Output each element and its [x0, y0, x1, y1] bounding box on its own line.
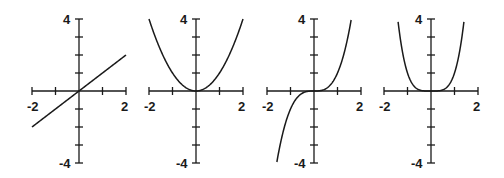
graph-cubic: 4 -4 -2 2 [262, 12, 363, 171]
x-max-label: 2 [473, 99, 480, 114]
y-min-label: -4 [176, 156, 188, 171]
x-min-label: -2 [262, 99, 274, 114]
graph-linear: 4 -4 -2 2 [27, 12, 128, 171]
graph-quartic: 4 -4 -2 2 [379, 12, 480, 171]
y-min-label: -4 [411, 156, 423, 171]
y-max-label: 4 [180, 12, 188, 27]
y-max-label: 4 [63, 12, 71, 27]
y-min-label: -4 [294, 156, 306, 171]
y-min-label: -4 [59, 156, 71, 171]
x-min-label: -2 [27, 99, 39, 114]
x-min-label: -2 [144, 99, 156, 114]
y-max-label: 4 [415, 12, 423, 27]
x-max-label: 2 [121, 99, 128, 114]
y-max-label: 4 [298, 12, 306, 27]
power-function-graphs: 4 -4 -2 2 4 -4 -2 2 4 -4 -2 2 4 -4 -2 2 [0, 0, 504, 178]
x-max-label: 2 [356, 99, 363, 114]
x-max-label: 2 [238, 99, 245, 114]
graph-quadratic: 4 -4 -2 2 [144, 12, 245, 171]
x-min-label: -2 [379, 99, 391, 114]
